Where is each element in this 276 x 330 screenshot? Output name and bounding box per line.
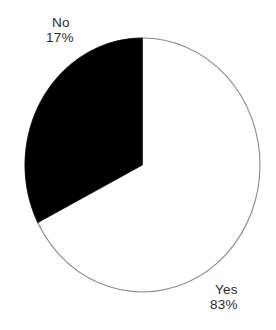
- pie-label-yes: Yes 83%: [210, 282, 238, 312]
- pie-label-yes-value: 83%: [210, 297, 238, 312]
- pie-label-no-value: 17%: [46, 30, 74, 45]
- pie-label-yes-name: Yes: [210, 282, 238, 297]
- pie-label-no-name: No: [46, 15, 74, 30]
- pie-chart-figure: No 17% Yes 83%: [0, 0, 276, 330]
- pie-label-no: No 17%: [46, 15, 74, 45]
- pie-chart-graphic: [0, 0, 276, 330]
